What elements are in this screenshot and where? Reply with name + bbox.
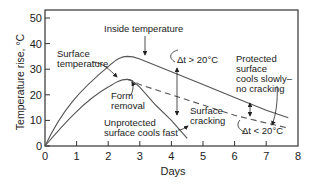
x-tick-label: 5	[200, 150, 206, 162]
y-tick-label: 40	[30, 38, 42, 50]
inside-temperature-label: Inside temperature	[104, 23, 183, 34]
delta-t-less-label: Δt < 20°C	[242, 125, 283, 136]
y-axis	[45, 18, 50, 146]
x-axis-title: Days	[160, 165, 186, 177]
x-tick-label: 2	[105, 150, 111, 162]
x-tick-label: 3	[137, 150, 143, 162]
surface-temperature-label: temperature	[57, 58, 108, 69]
x-tick-label: 4	[168, 150, 174, 162]
form-removal-label: removal	[111, 100, 145, 111]
y-tick-label: 30	[30, 63, 42, 75]
x-tick-label: 6	[232, 150, 238, 162]
x-tick-label: 7	[263, 150, 269, 162]
x-axis	[77, 141, 267, 146]
delta-t-greater-label: Δt > 20°C	[177, 54, 218, 65]
y-tick-label: 20	[30, 89, 42, 101]
y-tick-label: 50	[30, 12, 42, 24]
x-tick-label: 8	[295, 150, 301, 162]
temperature-rise-chart: 0 10 20 30 40 50 0 1 2 3 4 5 6 7 8	[0, 0, 313, 188]
y-axis-title: Temperature rise, °C	[14, 33, 26, 130]
surface-cracking-label: cracking	[190, 115, 225, 126]
y-tick-label: 10	[30, 114, 42, 126]
x-tick-label: 1	[74, 150, 80, 162]
x-tick-label: 0	[42, 150, 48, 162]
protected-label: no cracking	[236, 83, 285, 94]
unprotected-label: surface cools fast	[104, 127, 178, 138]
